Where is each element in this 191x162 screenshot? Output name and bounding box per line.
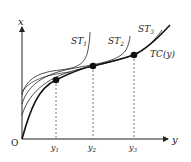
tc-label: TC(y) <box>150 49 175 59</box>
tangency-point-3 <box>131 52 138 59</box>
tc-curve <box>22 25 170 139</box>
cost-curves-diagram: x y O ST1 ST2 ST3 TC(y) y1 y2 y3 <box>0 0 191 162</box>
tangency-point-2 <box>90 63 97 70</box>
st2-label: ST2 <box>108 36 124 47</box>
y-axis-label: x <box>18 16 24 27</box>
st1-label: ST1 <box>71 36 87 47</box>
tick-y1: y1 <box>50 143 59 153</box>
st3-curve <box>22 30 162 115</box>
tangency-point-1 <box>53 77 60 84</box>
tick-y2: y2 <box>87 143 97 153</box>
x-axis-label: y <box>171 134 178 145</box>
origin-label: O <box>11 138 18 148</box>
st-extra-curve <box>22 72 70 92</box>
st3-label: ST3 <box>138 24 154 35</box>
tick-y3: y3 <box>128 143 138 153</box>
